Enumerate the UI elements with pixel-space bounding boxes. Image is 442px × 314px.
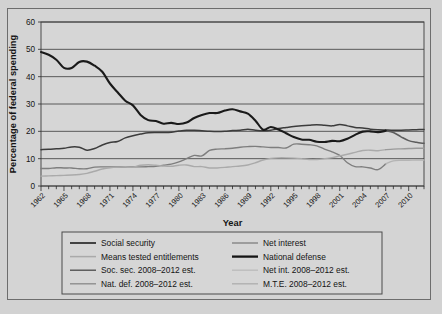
y-tick-label: 60 <box>26 18 36 27</box>
y-tick-label: 40 <box>26 73 36 82</box>
y-tick-label: 0 <box>30 182 35 191</box>
x-tick-label: 1980 <box>166 191 184 209</box>
x-tick-label: 1968 <box>75 191 93 209</box>
legend-label: Nat. def. 2008–2012 est. <box>101 279 193 289</box>
x-axis-tick-labels: 1962196519681971197419771980198319861989… <box>29 191 415 209</box>
x-tick-label: 1983 <box>189 191 207 209</box>
x-tick-label: 2007 <box>373 191 391 209</box>
x-tick-label: 1998 <box>304 191 322 209</box>
legend-label: Net interest <box>263 238 306 248</box>
legend-label: Net int. 2008–2012 est. <box>263 265 350 275</box>
legend-label: Soc. sec. 2008–2012 est. <box>101 265 196 275</box>
x-tick-label: 2004 <box>350 191 368 209</box>
x-tick-label: 1971 <box>98 191 116 209</box>
x-tick-label: 2001 <box>327 191 345 209</box>
x-tick-label: 1977 <box>143 191 161 209</box>
y-axis-tick-labels: 0102030405060 <box>26 18 36 191</box>
legend-label: National defense <box>263 252 326 262</box>
chart-legend: Social securityMeans tested entitlements… <box>62 232 382 294</box>
y-tick-label: 30 <box>26 100 36 109</box>
y-tick-label: 50 <box>26 45 36 54</box>
y-axis-title: Percentage of federal spending <box>8 34 18 173</box>
legend-label: M.T.E. 2008–2012 est. <box>263 279 347 289</box>
x-axis-title: Year <box>223 218 243 228</box>
chart-container: 0102030405060 Percentage of federal spen… <box>0 0 442 314</box>
x-tick-label: 2010 <box>396 191 414 209</box>
x-tick-label: 1986 <box>212 191 230 209</box>
x-tick-label: 1974 <box>121 191 139 209</box>
x-tick-label: 1962 <box>29 191 47 209</box>
legend-label: Means tested entitlements <box>101 252 199 262</box>
x-tick-label: 1995 <box>281 191 299 209</box>
x-tick-label: 1989 <box>235 191 253 209</box>
x-tick-label: 1965 <box>52 191 70 209</box>
figure-root: 0102030405060 Percentage of federal spen… <box>0 0 442 314</box>
legend-label: Social security <box>101 238 156 248</box>
y-tick-label: 10 <box>26 155 36 164</box>
series-line <box>386 129 424 130</box>
x-axis-ticks <box>41 186 424 191</box>
y-tick-label: 20 <box>26 127 36 136</box>
x-tick-label: 1992 <box>258 191 276 209</box>
line-chart: 0102030405060 Percentage of federal spen… <box>0 0 442 314</box>
